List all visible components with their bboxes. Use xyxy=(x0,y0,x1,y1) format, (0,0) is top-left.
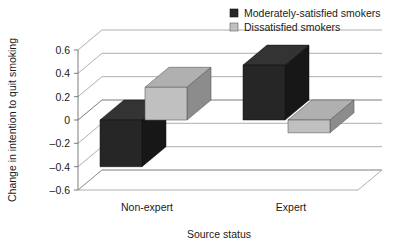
y-tick-label-1: 0.4 xyxy=(55,67,70,79)
bar-front-face xyxy=(145,87,187,120)
y-tick-label-3: 0 xyxy=(64,114,70,126)
legend-label-moderately-satisfied: Moderately-satisfied smokers xyxy=(244,7,381,19)
y-tick-label-2: 0.2 xyxy=(55,91,70,103)
gridline-0.4 xyxy=(78,53,382,73)
bar-front-face xyxy=(100,120,142,167)
floor-plane xyxy=(78,170,382,190)
chart-container: 0.6 0.4 0.2 0 –0.2 –0.4 –0.6 xyxy=(0,0,401,250)
legend-swatch-moderately-satisfied xyxy=(230,9,238,17)
bar-front-face xyxy=(243,65,285,120)
x-category-label-1: Expert xyxy=(276,201,306,213)
bar-expert-moderately-satisfied xyxy=(243,45,309,120)
y-tick-label-0: 0.6 xyxy=(55,44,70,56)
y-tick-label-4: –0.2 xyxy=(50,137,71,149)
legend: Moderately-satisfied smokers Dissatisfie… xyxy=(230,7,381,33)
gridline--0.6 xyxy=(78,170,382,190)
gridline-0.6 xyxy=(78,30,382,50)
y-tick-label-5: –0.4 xyxy=(50,161,71,173)
bar-chart-svg: 0.6 0.4 0.2 0 –0.2 –0.4 –0.6 xyxy=(0,0,401,250)
y-tick-label-6: –0.6 xyxy=(50,184,71,196)
x-axis-title: Source status xyxy=(187,228,251,240)
bar-front-face xyxy=(288,120,330,133)
x-category-label-0: Non-expert xyxy=(121,201,173,213)
bar-nonexpert-dissatisfied xyxy=(145,67,211,120)
y-tick-marks xyxy=(74,50,78,190)
gridline-0.2 xyxy=(78,77,382,97)
legend-label-dissatisfied: Dissatisfied smokers xyxy=(244,21,340,33)
legend-swatch-dissatisfied xyxy=(230,23,238,31)
y-axis-title: Change in intention to quit smoking xyxy=(6,38,18,202)
